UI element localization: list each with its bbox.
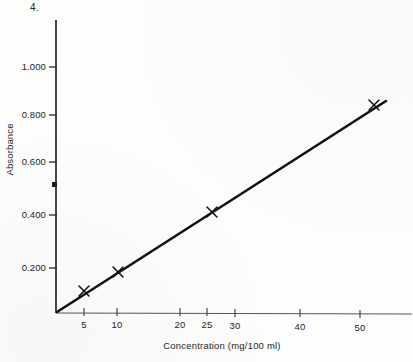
y-axis-title: Absorbance [4,110,15,190]
figure-page: 4. [0,0,413,362]
y-tick-label: 0.400 [0,209,46,220]
regression-line [57,101,386,312]
x-tick-label: 30 [222,320,248,331]
x-tick-label: 25 [194,319,220,330]
calibration-plot [0,0,413,362]
data-point-markers [79,100,379,296]
y-tick-label: 1.000 [0,61,46,72]
scan-blemish [52,182,57,187]
x-tick-label: 40 [287,321,313,332]
x-axis-title: Concentration (mg/100 ml) [92,340,352,351]
y-tick-label: 0.200 [0,262,46,273]
data-point [207,207,217,217]
x-tick-label: 50 [347,322,373,333]
x-tick-label: 5 [71,319,97,330]
x-tick-label: 20 [167,319,193,330]
x-tick-label: 10 [104,319,130,330]
x-axis [56,313,412,314]
